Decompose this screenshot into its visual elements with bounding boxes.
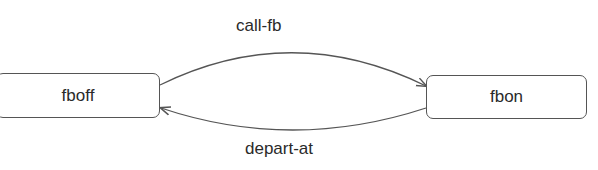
state-fboff-label: fboff [62, 86, 95, 106]
transition-call-fb-arrow [160, 53, 426, 86]
state-fboff[interactable]: fboff [0, 73, 160, 118]
state-fbon[interactable]: fbon [426, 75, 587, 119]
state-fbon-label: fbon [490, 87, 523, 107]
transition-depart-at-arrow [161, 108, 426, 130]
transition-depart-at-label: depart-at [245, 139, 313, 159]
transition-call-fb-label: call-fb [236, 16, 281, 36]
